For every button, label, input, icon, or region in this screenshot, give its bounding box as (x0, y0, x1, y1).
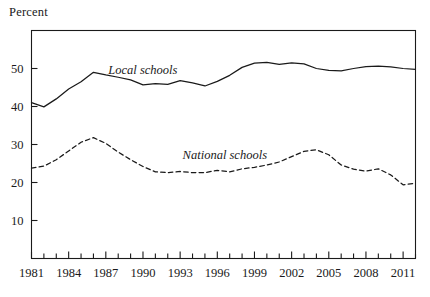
y-axis-tick-label: 30 (11, 138, 24, 152)
chart-figure: Percent 10203040501981198419871990199319… (0, 0, 430, 297)
x-axis-tick-label: 1993 (168, 266, 193, 280)
series-label-1: Local schools (107, 63, 177, 77)
plot-frame (32, 31, 416, 259)
x-axis-tick-label: 1984 (56, 266, 82, 280)
y-axis-tick-label: 10 (11, 214, 24, 228)
x-axis-tick-label: 1987 (93, 266, 118, 280)
x-axis-tick-label: 2008 (353, 266, 378, 280)
x-axis-tick-label: 2002 (279, 266, 304, 280)
x-axis-tick-label: 2005 (316, 266, 341, 280)
line-chart-plot: 1020304050198119841987199019931996199920… (0, 0, 430, 297)
y-axis-tick-label: 20 (11, 176, 24, 190)
series-line-1 (32, 62, 416, 106)
x-axis-tick-label: 2011 (391, 266, 416, 280)
y-axis-tick-label: 50 (11, 62, 24, 76)
x-axis-tick-label: 1990 (130, 266, 155, 280)
x-axis-tick-label: 1999 (242, 266, 267, 280)
x-axis-tick-label: 1981 (19, 266, 44, 280)
series-label-2: National schools (182, 148, 268, 162)
y-axis-tick-label: 40 (11, 100, 24, 114)
x-axis-tick-label: 1996 (205, 266, 230, 280)
